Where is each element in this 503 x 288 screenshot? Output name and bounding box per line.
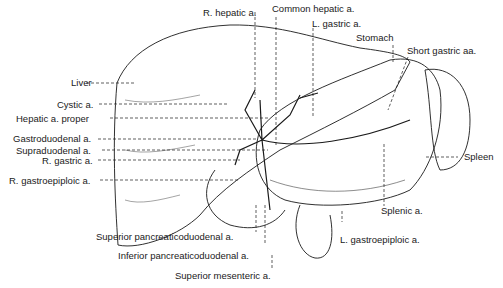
label-stomach: Stomach [356,33,394,43]
label-superior-pancreaticoduodenal-artery: Superior pancreaticoduodenal a. [96,232,233,242]
stomach-outline [256,59,441,205]
anatomy-diagram: R. hepatic a. Common hepatic a. L. gastr… [0,0,503,288]
label-short-gastric-arteries: Short gastric aa. [407,46,476,56]
duodenum-outline [207,170,285,228]
label-r-hepatic-artery: R. hepatic a. [203,8,256,18]
anatomy-illustration [0,0,503,288]
label-splenic-artery: Splenic a. [381,206,423,216]
label-cystic-artery: Cystic a. [57,100,93,110]
jejunum-outline [296,205,332,258]
label-r-gastric-artery: R. gastric a. [42,156,93,166]
label-hepatic-artery-proper: Hepatic a. proper [16,114,89,124]
label-l-gastroepiploic-artery: L. gastroepiploic a. [340,235,420,245]
label-liver: Liver [71,78,92,88]
label-spleen: Spleen [464,152,494,162]
label-gastroduodenal-artery: Gastroduodenal a. [13,134,91,144]
label-r-gastroepiploic-artery: R. gastroepiploic a. [9,176,90,186]
label-l-gastric-artery: L. gastric a. [312,19,361,29]
label-superior-mesenteric-artery: Superior mesenteric a. [175,271,271,281]
label-inferior-pancreaticoduodenal-artery: Inferior pancreaticoduodenal a. [118,251,249,261]
label-common-hepatic-artery: Common hepatic a. [272,4,354,14]
